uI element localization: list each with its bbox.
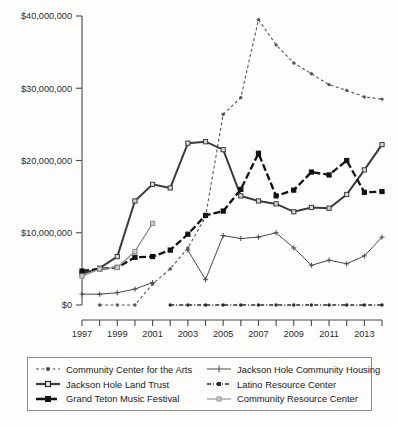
data-point-marker <box>221 233 226 238</box>
data-point-marker <box>116 303 119 306</box>
data-point-marker <box>150 182 154 186</box>
data-point-marker <box>345 303 348 306</box>
legend-label: Jackson Hole Land Trust <box>66 379 169 390</box>
data-point-marker <box>79 292 84 297</box>
y-tick-group: $0$10,000,000$20,000,000$30,000,000$40,0… <box>21 11 82 310</box>
y-tick-label: $30,000,000 <box>21 84 72 94</box>
data-point-marker <box>169 267 172 270</box>
data-point-marker <box>150 221 154 225</box>
data-point-marker <box>274 43 277 46</box>
data-point-marker <box>133 249 137 253</box>
legend-label: Community Resource Center <box>237 393 358 404</box>
legend-item-jackson-hole-community-housing[interactable]: Jackson Hole Community Housing <box>206 362 366 377</box>
data-point-marker <box>98 303 101 306</box>
data-point-marker <box>345 89 348 92</box>
data-point-marker <box>239 96 242 99</box>
data-point-marker <box>363 303 366 306</box>
chart-legend: Community Center for the Arts Jackson Ho… <box>27 357 372 411</box>
data-point-marker <box>186 141 190 145</box>
data-point-marker <box>362 190 366 194</box>
data-point-marker <box>186 232 190 236</box>
data-point-marker <box>274 202 278 206</box>
data-point-marker <box>204 303 207 306</box>
y-tick-label: $0 <box>62 300 72 310</box>
data-point-marker <box>380 303 383 306</box>
data-point-marker <box>362 168 366 172</box>
data-point-marker <box>256 199 260 203</box>
data-point-marker <box>344 261 349 266</box>
data-point-marker <box>327 173 331 177</box>
data-point-marker <box>186 303 189 306</box>
data-point-marker <box>345 192 349 196</box>
data-point-marker <box>238 236 243 241</box>
x-tick-label: 2009 <box>284 329 304 339</box>
data-point-marker <box>256 151 260 155</box>
data-point-marker <box>168 248 172 252</box>
y-tick-label: $10,000,000 <box>21 228 72 238</box>
series-group <box>79 18 384 307</box>
chart-figure: $0$10,000,000$20,000,000$30,000,000$40,0… <box>0 0 398 426</box>
data-point-marker <box>292 210 296 214</box>
data-point-marker <box>309 170 313 174</box>
legend-label: Grand Teton Music Festival <box>66 393 179 404</box>
data-point-marker <box>380 97 383 100</box>
data-point-marker <box>150 254 154 258</box>
data-point-marker <box>310 72 313 75</box>
data-point-marker <box>292 188 296 192</box>
data-point-marker <box>115 265 119 269</box>
x-tick-label: 2003 <box>178 329 198 339</box>
data-point-marker <box>257 18 260 21</box>
data-point-marker <box>239 187 243 191</box>
data-point-marker <box>133 199 137 203</box>
data-point-marker <box>274 194 278 198</box>
legend-column-left: Community Center for the Arts Jackson Ho… <box>35 362 206 406</box>
legend-item-community-center-for-the-arts[interactable]: Community Center for the Arts <box>35 362 206 377</box>
legend-item-grand-teton-music-festival[interactable]: Grand Teton Music Festival <box>35 391 206 406</box>
data-point-marker <box>256 234 261 239</box>
data-point-marker <box>80 274 84 278</box>
data-point-marker <box>221 209 225 213</box>
data-point-marker <box>327 83 330 86</box>
data-point-marker <box>150 280 155 285</box>
data-point-marker <box>274 303 277 306</box>
data-point-marker <box>327 303 330 306</box>
legend-item-jackson-hole-land-trust[interactable]: Jackson Hole Land Trust <box>35 377 206 392</box>
data-point-marker <box>203 213 207 217</box>
x-tick-label: 2001 <box>142 329 162 339</box>
legend-label: Jackson Hole Community Housing <box>237 364 380 375</box>
series-line-jackson-hole-community-housing <box>188 233 382 280</box>
data-point-marker <box>132 287 137 292</box>
legend-label: Community Center for the Arts <box>66 364 192 375</box>
x-tick-label: 2005 <box>213 329 233 339</box>
legend-item-latino-resource-center[interactable]: Latino Resource Center <box>206 377 366 392</box>
legend-swatch-solid-square-icon <box>35 378 61 390</box>
data-point-marker <box>221 303 224 306</box>
data-point-marker <box>97 292 102 297</box>
x-tick-label: 2013 <box>354 329 374 339</box>
legend-column-right: Jackson Hole Community Housing Latino Re… <box>206 362 366 406</box>
data-point-marker <box>326 258 331 263</box>
line-chart-plot: $0$10,000,000$20,000,000$30,000,000$40,0… <box>0 0 398 340</box>
legend-swatch-thin-solid-plus-icon <box>206 363 232 375</box>
data-point-marker <box>292 303 295 306</box>
x-tick-label: 2011 <box>319 329 339 339</box>
data-point-marker <box>380 143 384 147</box>
legend-item-community-resource-center[interactable]: Community Resource Center <box>206 391 366 406</box>
data-point-marker <box>345 158 349 162</box>
data-point-marker <box>239 303 242 306</box>
data-point-marker <box>363 95 366 98</box>
y-tick-label: $20,000,000 <box>21 156 72 166</box>
x-tick-group: 199719992001200320052007200920112013 <box>72 320 382 339</box>
data-point-marker <box>169 303 172 306</box>
data-point-marker <box>115 254 119 258</box>
data-point-marker <box>292 61 295 64</box>
legend-label: Latino Resource Center <box>237 379 336 390</box>
data-point-marker <box>185 247 190 252</box>
data-point-marker <box>98 267 102 271</box>
data-point-marker <box>380 189 384 193</box>
data-point-marker <box>80 269 84 273</box>
y-tick-label: $40,000,000 <box>21 11 72 21</box>
data-point-marker <box>239 194 243 198</box>
data-point-marker <box>310 303 313 306</box>
legend-swatch-dotted-dot-icon <box>35 363 61 375</box>
